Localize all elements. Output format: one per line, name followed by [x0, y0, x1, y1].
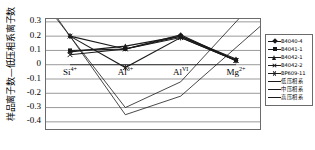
y-axis-tick-label: -0.4 [27, 115, 41, 126]
legend-marker-icon [268, 45, 281, 53]
y-axis-tick-label: 0 [37, 58, 42, 69]
series-line-extension [236, 27, 260, 48]
category-superscript: 3+ [127, 66, 133, 72]
series-line [70, 35, 236, 61]
y-axis-tick-labels: 0.30.20.10-0.1-0.2-0.3-0.4 [16, 18, 43, 130]
legend-item: B4041-1 [268, 45, 311, 53]
category-superscript: 2+ [239, 66, 245, 72]
legend-marker-icon [268, 61, 281, 69]
category-base: Mg [227, 67, 240, 77]
legend-item-label: B4040-4 [281, 37, 302, 45]
legend-item-label: 高压相系 [281, 93, 303, 101]
series-中压相系 [46, 19, 260, 108]
legend-item: 中压相系 [268, 85, 311, 93]
series-line [70, 36, 236, 115]
x-axis-category-label: AlVI [173, 67, 188, 77]
legend-item: B4042-1 [268, 53, 311, 61]
legend-item: 低压相系 [268, 77, 311, 85]
y-axis-tick-label: -0.3 [27, 101, 41, 112]
legend-marker-icon [268, 93, 281, 101]
legend-item-label: 低压相系 [281, 77, 303, 85]
x-axis-category-label: Si4+ [63, 67, 77, 77]
y-axis-tick-label: -0.2 [27, 87, 41, 98]
x-axis-category-label: Al3+ [118, 67, 133, 77]
chart-legend: B4040-4B4041-1B4042-1B4042-2BP609-11低压相系… [265, 34, 313, 106]
series-B4041-1 [68, 34, 238, 62]
legend-item-label: B4042-2 [281, 61, 302, 69]
legend-marker-icon [268, 77, 281, 85]
legend-item-label: BP609-11 [281, 69, 305, 77]
legend-item: 高压相系 [268, 93, 311, 101]
legend-item: B4040-4 [268, 37, 311, 45]
category-base: Al [173, 67, 182, 77]
x-axis-category-label: Mg2+ [227, 67, 246, 77]
legend-marker-icon [268, 53, 281, 61]
legend-item-label: B4042-1 [281, 53, 302, 61]
category-superscript: VI [182, 66, 188, 72]
legend-marker-icon [268, 37, 281, 45]
chart-figure: 样品离子数—低压相系离子数 0.30.20.10-0.1-0.2-0.3-0.4… [0, 0, 315, 150]
legend-item: BP609-11 [268, 69, 311, 77]
y-axis-tick-label: -0.1 [27, 73, 41, 84]
category-base: Al [118, 67, 127, 77]
category-superscript: 4+ [71, 66, 77, 72]
series-line [70, 36, 236, 59]
category-base: Si [63, 67, 71, 77]
legend-marker-icon [268, 69, 281, 77]
legend-item-label: 中压相系 [281, 85, 303, 93]
legend-item: B4042-2 [268, 61, 311, 69]
y-axis-tick-label: 0.2 [30, 30, 41, 41]
y-axis-tick-label: 0.3 [30, 15, 41, 26]
legend-item-label: B4041-1 [281, 45, 302, 53]
legend-marker-icon [268, 85, 281, 93]
y-axis-tick-label: 0.1 [30, 44, 41, 55]
